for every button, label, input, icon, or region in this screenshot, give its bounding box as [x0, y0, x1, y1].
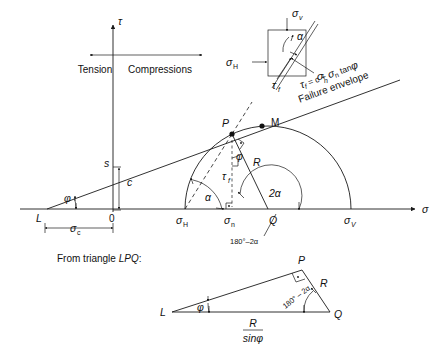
sigma-axis-label: σ — [422, 203, 429, 215]
svg-text:V: V — [351, 221, 357, 228]
envelope-intercept-label: s — [104, 157, 110, 169]
svg-text:σ: σ — [292, 7, 299, 19]
fraction-denominator: sinφ — [243, 332, 263, 344]
tau-f-element-label: τ f — [272, 79, 281, 93]
svg-text:v: v — [299, 14, 303, 21]
envelope-equation-group: τf = c + σn tanφ Failure envelope — [292, 56, 370, 105]
svg-text:σ: σ — [176, 214, 183, 226]
svg-text:f: f — [228, 177, 231, 184]
point-P-label: P — [222, 117, 229, 129]
fraction-numerator: R — [249, 317, 257, 329]
sigma-v-element-label: σ v — [292, 7, 303, 21]
svg-text:σ: σ — [224, 214, 231, 226]
triangle-note: From triangle LPQ: — [57, 253, 141, 264]
svg-text:σ: σ — [344, 214, 351, 226]
svg-text:f: f — [278, 86, 281, 93]
svg-text:τ: τ — [222, 170, 227, 182]
triangle-supplement-label: 180° – 2α — [281, 283, 313, 310]
point-L-label: L — [36, 212, 42, 224]
compression-label: Compressions — [128, 64, 192, 75]
svg-text:τ: τ — [272, 79, 277, 91]
triangle-vertex-P: P — [298, 254, 305, 266]
label-layer: τ σ Tension Compressions L 0 φ s c σ c σ… — [0, 0, 440, 350]
sigma-c-label: σ c — [70, 222, 81, 236]
tau-axis-label: τ — [118, 15, 123, 27]
figure-root: τ σ Tension Compressions L 0 φ s c σ c σ… — [0, 0, 440, 350]
svg-text:c: c — [77, 229, 81, 236]
triangle-note-text: From triangle LPQ: — [57, 253, 141, 264]
sigma-V-axis-label: σ V — [344, 214, 357, 228]
triangle-vertex-Q: Q — [334, 308, 342, 320]
supplement-angle-label: 180°–2α — [230, 237, 259, 246]
svg-text:H: H — [183, 221, 188, 228]
triangle-phi-label: φ — [197, 301, 204, 313]
svg-text:H: H — [233, 63, 238, 70]
point-Q-label: Q — [269, 214, 277, 226]
origin-label: 0 — [109, 213, 115, 224]
point-M-label: M — [271, 117, 279, 128]
radius-label: R — [253, 156, 261, 168]
two-alpha-angle-label: 2α — [268, 187, 282, 199]
sigma-H-axis-label: σ H — [176, 214, 188, 228]
tension-label: Tension — [78, 64, 112, 75]
alpha-angle-element-label: α — [297, 30, 304, 42]
svg-text:σ: σ — [226, 56, 233, 68]
alpha-angle-label: α — [205, 191, 212, 203]
phi-angle-label-P: φ — [236, 150, 243, 162]
svg-text:n: n — [231, 221, 235, 228]
cohesion-label: c — [127, 176, 133, 188]
svg-text:σ: σ — [70, 222, 77, 234]
sigma-H-element-label: σ H — [226, 56, 238, 70]
svg-text:180° – 2α: 180° – 2α — [281, 283, 313, 310]
sigma-n-axis-label: σ n — [224, 214, 235, 228]
triangle-vertex-L: L — [160, 306, 166, 318]
phi-angle-label-L: φ — [64, 192, 71, 204]
triangle-side-R-label: R — [320, 277, 328, 289]
tau-f-circle-label: τ f — [222, 170, 231, 184]
